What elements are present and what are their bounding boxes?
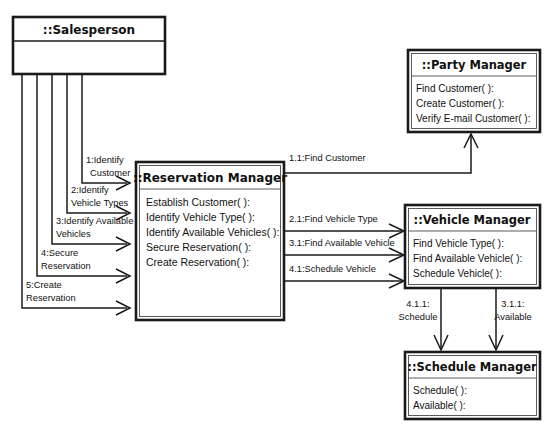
operation-reservation-4: Create Reservation( ):: [146, 256, 249, 268]
message-5-line2: Reservation: [26, 293, 76, 303]
operation-reservation-0: Establish Customer( ):: [146, 196, 250, 208]
message-4-line2: Reservation: [41, 261, 91, 271]
message-4-1-1-line2: Schedule: [399, 312, 438, 322]
message-1-line2: Customer: [90, 168, 130, 178]
message-1-1-label: 1.1:Find Customer: [289, 153, 365, 163]
message-3-line1: 3:Identify Available: [56, 216, 133, 226]
operation-vehicle-0: Find Vehicle Type( ):: [413, 238, 504, 249]
operation-reservation-3: Secure Reservation( ):: [146, 241, 251, 253]
arrowheads-to-reservation-manager: [116, 176, 130, 315]
class-box-vehicle-manager[interactable]: ::Vehicle Manager Find Vehicle Type( ): …: [405, 205, 540, 288]
operation-party-2: Verify E-mail Customer( ):: [416, 113, 530, 124]
operation-party-0: Find Customer( ):: [416, 83, 494, 94]
message-3-1-1-line2: Available: [494, 312, 532, 322]
uml-diagram-svg: ::Salesperson ::Reservation Manager Esta…: [0, 0, 545, 426]
message-4-line1: 4:Secure: [41, 248, 78, 258]
class-box-reservation-manager[interactable]: ::Reservation Manager Establish Customer…: [133, 162, 287, 320]
message-label-2-1: 2.1:Find Vehicle Type: [289, 214, 378, 224]
message-4-1-1-line1: 4.1.1:: [406, 299, 429, 309]
message-3-1-1-line1: 3.1.1:: [501, 299, 524, 309]
link-vehicle-to-schedule: [434, 288, 503, 350]
message-label-1: 1:Identify Customer: [86, 155, 130, 178]
message-label-3-1-1: 3.1.1: Available: [494, 299, 532, 322]
uml-diagram-canvas: ::Salesperson ::Reservation Manager Esta…: [0, 0, 545, 426]
message-2-1-label: 2.1:Find Vehicle Type: [289, 214, 378, 224]
operation-schedule-0: Schedule( ):: [413, 385, 467, 396]
message-2-line1: 2:Identify: [71, 185, 109, 195]
operation-vehicle-2: Schedule Vehicle( ):: [413, 268, 502, 279]
message-3-1-label: 3.1:Find Available Vehicle: [289, 238, 395, 248]
class-box-salesperson[interactable]: ::Salesperson: [13, 17, 165, 74]
message-label-5: 5:Create Reservation: [26, 280, 76, 303]
message-label-3-1: 3.1:Find Available Vehicle: [289, 238, 395, 248]
operation-party-1: Create Customer( ):: [416, 98, 504, 109]
operation-schedule-1: Available( ):: [413, 400, 466, 411]
message-label-4-1-1: 4.1.1: Schedule: [399, 299, 438, 322]
message-3-line2: Vehicles: [56, 229, 91, 239]
operation-vehicle-1: Find Available Vehicle( ):: [413, 253, 522, 264]
operation-reservation-1: Identify Vehicle Type( ):: [146, 211, 255, 223]
class-title-schedule-manager: ::Schedule Manager: [407, 360, 537, 374]
class-title-salesperson: ::Salesperson: [43, 23, 135, 37]
message-label-1-1: 1.1:Find Customer: [289, 153, 365, 163]
message-2-line2: Vehicle Types: [71, 198, 129, 208]
class-box-party-manager[interactable]: ::Party Manager Find Customer( ): Create…: [408, 50, 540, 132]
message-4-1-label: 4.1:Schedule Vehicle: [289, 264, 376, 274]
message-label-4-1: 4.1:Schedule Vehicle: [289, 264, 376, 274]
operation-reservation-2: Identify Available Vehicles( ):: [146, 226, 279, 238]
message-label-4: 4:Secure Reservation: [41, 248, 91, 271]
class-title-reservation-manager: ::Reservation Manager: [133, 171, 287, 185]
class-title-party-manager: ::Party Manager: [422, 58, 527, 72]
link-reservation-to-vehicle: [285, 224, 404, 288]
class-box-schedule-manager[interactable]: ::Schedule Manager Schedule( ): Availabl…: [405, 352, 540, 419]
message-label-3: 3:Identify Available Vehicles: [56, 216, 133, 239]
class-title-vehicle-manager: ::Vehicle Manager: [414, 213, 531, 227]
message-5-line1: 5:Create: [26, 280, 62, 290]
message-1-line1: 1:Identify: [86, 155, 124, 165]
